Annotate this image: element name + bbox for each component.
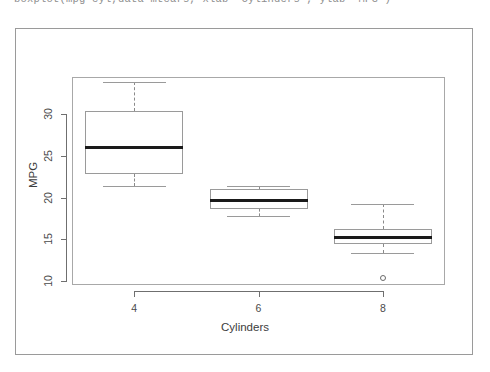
whisker-lower [134, 174, 135, 186]
whisker-cap-lower [351, 253, 414, 254]
median-line [85, 146, 183, 149]
outlier-point [380, 275, 386, 281]
y-axis-title: MPG [26, 155, 40, 195]
x-axis-tick [134, 291, 135, 297]
whisker-upper [383, 204, 384, 229]
median-line [334, 236, 432, 239]
y-axis-tick [61, 198, 67, 199]
y-axis-tick-label: 15 [42, 226, 54, 252]
y-axis-tick [61, 281, 67, 282]
plot-region [72, 77, 445, 285]
x-axis-tick-label: 4 [119, 302, 149, 314]
y-axis-tick [61, 114, 67, 115]
console-command-text: boxplot(mpg~cyl,data=mtcars, xlab="Cylin… [14, 0, 391, 5]
y-axis-tick-label: 25 [42, 143, 54, 169]
whisker-cap-upper [103, 82, 166, 83]
whisker-lower [383, 244, 384, 253]
y-axis-tick-label: 10 [42, 268, 54, 294]
x-axis-tick [259, 291, 260, 297]
whisker-lower [259, 209, 260, 216]
whisker-upper [134, 82, 135, 111]
y-axis-tick [61, 156, 67, 157]
y-axis-tick-label: 30 [42, 101, 54, 127]
whisker-cap-upper [227, 186, 290, 187]
x-axis-tick-label: 8 [368, 302, 398, 314]
box-iqr-rect [85, 111, 183, 174]
median-line [210, 199, 308, 202]
y-axis-tick [61, 239, 67, 240]
y-axis-tick-label: 20 [42, 185, 54, 211]
whisker-cap-lower [227, 216, 290, 217]
x-axis-tick-label: 6 [244, 302, 274, 314]
x-axis-title: Cylinders [0, 321, 490, 333]
x-axis-tick [383, 291, 384, 297]
whisker-cap-upper [351, 204, 414, 205]
whisker-cap-lower [103, 186, 166, 187]
